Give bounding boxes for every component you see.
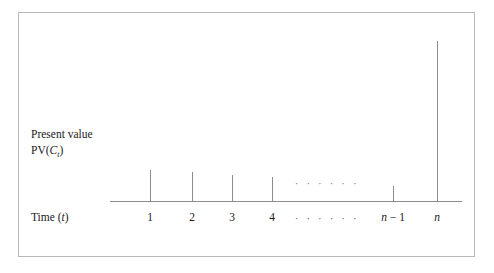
x-axis-label: Time (t): [31, 210, 69, 224]
y-axis-label-line1: Present value: [31, 128, 93, 140]
x-tick-label: n: [434, 210, 440, 224]
x-tick-label: 3: [229, 210, 235, 224]
cash-flow-bar: [150, 170, 151, 201]
cash-flow-bar: [232, 175, 233, 201]
pv-suffix: ): [59, 144, 63, 156]
x-tick-label: 1: [147, 210, 153, 224]
cash-flow-bar: [272, 177, 273, 201]
pv-prefix: PV(: [31, 144, 50, 156]
axis-ellipsis: · · · · · ·: [295, 212, 359, 224]
figure-canvas: Present value PV(Ct) Time (t) 1234n − 1n…: [0, 0, 494, 273]
time-axis-line: [110, 201, 462, 202]
x-tick-label: 4: [269, 210, 275, 224]
x-tick-label: n − 1: [381, 210, 405, 224]
cash-flow-bar: [437, 41, 438, 201]
y-axis-label: Present value PV(Ct): [31, 126, 93, 163]
y-axis-label-line2: PV(Ct): [31, 142, 93, 163]
plot-ellipsis: · · · · · ·: [295, 178, 359, 188]
x-tick-label: 2: [189, 210, 195, 224]
cash-flow-bar: [192, 172, 193, 201]
time-prefix: Time (: [31, 211, 62, 223]
cash-flow-bar: [393, 186, 394, 201]
time-suffix: ): [65, 211, 69, 223]
